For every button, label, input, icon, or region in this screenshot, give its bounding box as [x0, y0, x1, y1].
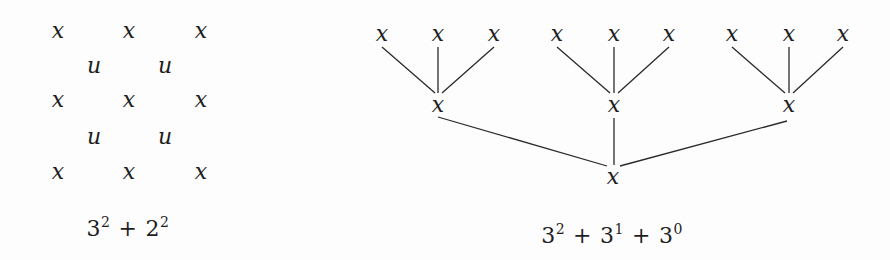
- tree-edge: [732, 47, 785, 93]
- tree-leaf-node: x: [551, 23, 563, 45]
- lattice-node-x: x: [195, 161, 207, 183]
- lattice-node-u: u: [87, 126, 101, 148]
- tree-leaf-node: x: [488, 23, 500, 45]
- tree-middle-node: x: [783, 94, 795, 116]
- tree-leaf-node: x: [608, 23, 620, 45]
- tree-edge: [557, 47, 610, 93]
- tree-edge: [620, 121, 787, 166]
- lattice-node-x: x: [195, 89, 207, 111]
- tree-edge: [793, 47, 843, 93]
- tree-leaf-node: x: [783, 23, 795, 45]
- right-caption: 32+31+30: [541, 223, 683, 249]
- lattice-node-x: x: [52, 20, 64, 42]
- tree-edge: [438, 117, 607, 166]
- lattice-node-x: x: [123, 89, 135, 111]
- lattice-node-u: u: [158, 126, 172, 148]
- lattice-node-x: x: [123, 20, 135, 42]
- tree-edge: [442, 47, 494, 93]
- lattice-node-u: u: [87, 55, 101, 77]
- tree-leaf-node: x: [376, 23, 388, 45]
- left-caption: 32+22: [87, 216, 170, 242]
- lattice-node-x: x: [52, 89, 64, 111]
- tree-leaf-node: x: [726, 23, 738, 45]
- tree-middle-node: x: [608, 94, 620, 116]
- tree-middle-node: x: [432, 94, 444, 116]
- lattice-node-x: x: [195, 20, 207, 42]
- tree-leaf-node: x: [837, 23, 849, 45]
- lattice-node-u: u: [158, 55, 172, 77]
- tree-edge: [382, 47, 435, 93]
- figure: xxxxxxxxxuuuu xxxxxxxxxxxxx 32+22 32+31+…: [0, 0, 890, 260]
- lattice-node-x: x: [123, 161, 135, 183]
- tree-leaf-node: x: [663, 23, 675, 45]
- tree-edge: [618, 47, 669, 93]
- lattice-node-x: x: [52, 161, 64, 183]
- tree-root-node: x: [607, 166, 619, 188]
- tree-leaf-node: x: [432, 23, 444, 45]
